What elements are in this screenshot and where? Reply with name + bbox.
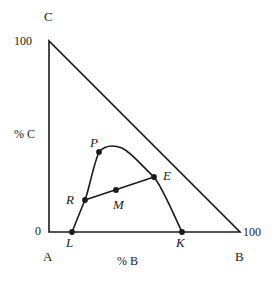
axis-title-percent-c: % C — [14, 128, 35, 140]
point-label-r: R — [66, 193, 74, 206]
tick-label-origin: 0 — [35, 225, 41, 237]
point-marker-E — [151, 174, 157, 180]
ternary-diagram-svg — [0, 0, 279, 285]
tick-label-b-max: 100 — [243, 226, 261, 238]
point-label-p: P — [90, 136, 98, 149]
axis-title-percent-b: % B — [117, 255, 138, 267]
point-marker-M — [113, 187, 119, 193]
vertex-label-c: C — [44, 10, 53, 23]
binodal-curve — [72, 146, 182, 232]
point-label-e: E — [163, 169, 171, 182]
tick-label-c-max: 100 — [14, 35, 32, 47]
vertex-label-a: A — [43, 250, 52, 263]
point-label-m: M — [113, 198, 124, 211]
point-marker-R — [82, 197, 88, 203]
triangle-frame — [49, 41, 240, 232]
point-label-k: K — [176, 236, 185, 249]
figure-canvas: C A B 100 0 100 % C % B P E R M L K — [0, 0, 279, 285]
point-label-l: L — [66, 236, 73, 249]
vertex-label-b: B — [235, 250, 244, 263]
